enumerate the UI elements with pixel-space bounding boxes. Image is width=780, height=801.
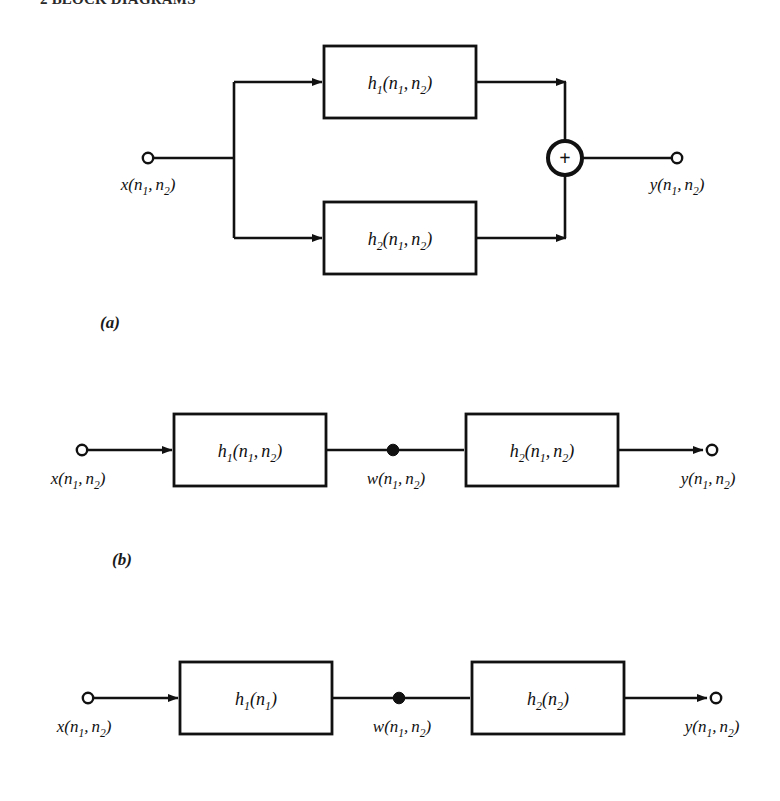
intermediate-node-b[interactable]	[387, 444, 399, 456]
diagram-c-group: h1(n1) h2(n2) x(n1,n2) w(n1,n2) y(n1,n2)	[56, 662, 740, 739]
output-terminal-c[interactable]	[711, 693, 721, 703]
input-terminal-c[interactable]	[83, 693, 93, 703]
block-h2-a[interactable]	[324, 202, 476, 274]
intermediate-label-b: w(n1,n2)	[367, 469, 426, 491]
diagram-canvas: h1(n1,n2) h2(n1,n2) + x(n1,n2)	[0, 0, 780, 801]
input-terminal-b[interactable]	[77, 445, 87, 455]
output-label-a: y(n1,n2)	[648, 175, 705, 197]
figure-page: 2 BLOCK DIAGRAMS (a) (b) h1(n1,n2)	[0, 0, 780, 801]
output-label-b: y(n1,n2)	[679, 469, 736, 491]
intermediate-label-c: w(n1,n2)	[373, 717, 432, 739]
input-label-c: x(n1,n2)	[56, 717, 112, 739]
diagram-b-group: h1(n1,n2) h2(n1,n2) x(n1,n2) w(n1,n2) y(…	[50, 414, 736, 491]
plus-icon: +	[559, 147, 570, 169]
intermediate-node-c[interactable]	[393, 692, 405, 704]
block-h1-b[interactable]	[174, 414, 326, 486]
block-h2-b[interactable]	[466, 414, 618, 486]
input-terminal-a[interactable]	[143, 153, 153, 163]
output-label-c: y(n1,n2)	[683, 717, 740, 739]
diagram-a-group: h1(n1,n2) h2(n1,n2) + x(n1,n2)	[120, 46, 705, 274]
output-terminal-a[interactable]	[672, 153, 682, 163]
output-terminal-b[interactable]	[707, 445, 717, 455]
input-label-a: x(n1,n2)	[120, 175, 176, 197]
input-label-b: x(n1,n2)	[50, 469, 106, 491]
block-h1-a[interactable]	[324, 46, 476, 118]
